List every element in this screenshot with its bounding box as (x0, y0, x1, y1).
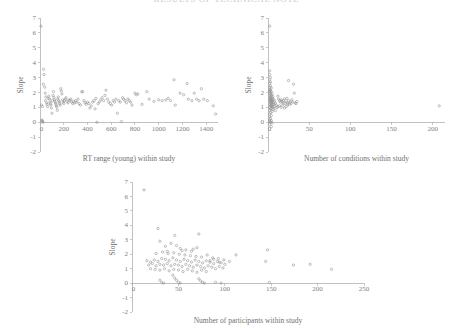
data-point (104, 94, 106, 96)
y-tick-label: -2 (122, 308, 128, 316)
data-points (143, 189, 333, 284)
y-tick-label: 3 (33, 74, 37, 82)
data-point (174, 104, 176, 106)
data-point (59, 102, 61, 104)
y-tick-label: 3 (261, 74, 265, 82)
data-point (269, 76, 271, 78)
data-point (49, 101, 51, 103)
data-point (206, 99, 208, 101)
data-point (42, 68, 44, 70)
x-tick-label: 100 (345, 125, 356, 133)
x-tick-label: 150 (266, 285, 277, 293)
data-point (56, 109, 58, 111)
data-point (191, 270, 193, 272)
data-point (203, 267, 205, 269)
data-point (182, 270, 184, 272)
scatter-panel-conditions: -2-101234567050100150200Number of condit… (226, 12, 453, 164)
data-point (212, 105, 214, 107)
scatter-panel-participants: -2-101234567050100150200250Number of par… (92, 176, 372, 326)
data-point (170, 242, 172, 244)
data-point (50, 107, 52, 109)
data-point (172, 257, 174, 259)
data-point (181, 249, 183, 251)
data-point (174, 263, 176, 265)
data-point (184, 254, 186, 256)
data-point (187, 260, 189, 262)
y-tick-label: 0 (125, 279, 129, 287)
data-point (228, 260, 230, 262)
data-point (124, 99, 126, 101)
data-point (185, 263, 187, 265)
data-point (46, 105, 48, 107)
data-point (293, 92, 295, 94)
data-point (274, 109, 276, 111)
data-point (196, 247, 198, 249)
data-point (287, 79, 289, 81)
y-tick-label: 6 (33, 29, 37, 37)
data-point (53, 97, 55, 99)
data-point (269, 70, 271, 72)
data-point (52, 91, 54, 93)
data-point (48, 95, 50, 97)
data-point (277, 95, 279, 97)
data-point (155, 265, 157, 267)
data-point (95, 97, 97, 99)
data-point (174, 277, 176, 279)
data-point (211, 266, 213, 268)
data-point (44, 99, 46, 101)
x-tick-label: 200 (312, 285, 323, 293)
data-point (153, 100, 155, 102)
data-point (292, 83, 294, 85)
data-point (159, 240, 161, 242)
data-point (141, 103, 143, 105)
data-point (185, 249, 187, 251)
data-point (56, 106, 58, 108)
data-point (224, 263, 226, 265)
data-point (198, 260, 200, 262)
data-point (269, 25, 271, 27)
y-tick-label: 2 (125, 250, 129, 258)
x-tick-label: 50 (306, 125, 314, 133)
data-point (296, 100, 298, 102)
y-tick-label: -1 (258, 133, 264, 141)
data-point (42, 83, 44, 85)
x-tick-label: 200 (427, 125, 438, 133)
data-point (50, 104, 52, 106)
data-point (191, 99, 193, 101)
data-point (214, 268, 216, 270)
data-point (222, 267, 224, 269)
data-point (165, 99, 167, 101)
data-point (177, 269, 179, 271)
y-axis-title: Slope (244, 76, 253, 94)
y-tick-label: 1 (261, 103, 265, 111)
data-point (46, 102, 48, 104)
scatter-panel-rt-range: -2-1012345670200400600800100012001400RT … (0, 12, 226, 164)
data-point (43, 73, 45, 75)
y-tick-label: 6 (261, 29, 265, 37)
x-tick-label: 600 (106, 125, 117, 133)
y-tick-label: -1 (30, 133, 36, 141)
data-point (167, 97, 169, 99)
data-point (55, 105, 57, 107)
data-point (153, 259, 155, 261)
data-point (173, 268, 175, 270)
plot-area: -2-101234567050100150200250Number of par… (92, 176, 372, 326)
x-tick-label: 1000 (152, 125, 167, 133)
y-tick-label: 1 (125, 265, 129, 273)
data-point (214, 113, 216, 115)
data-point (174, 234, 176, 236)
x-axis-title: Number of conditions within study (304, 154, 409, 163)
data-point (162, 264, 164, 266)
data-point (198, 233, 200, 235)
data-point (116, 112, 118, 114)
data-point (269, 73, 271, 75)
data-point (51, 112, 53, 114)
data-point (291, 99, 293, 101)
data-point (194, 259, 196, 261)
data-point (130, 101, 132, 103)
y-tick-label: 0 (33, 118, 37, 126)
data-point (286, 97, 288, 99)
data-point (172, 274, 174, 276)
data-point (154, 268, 156, 270)
data-point (205, 260, 207, 262)
